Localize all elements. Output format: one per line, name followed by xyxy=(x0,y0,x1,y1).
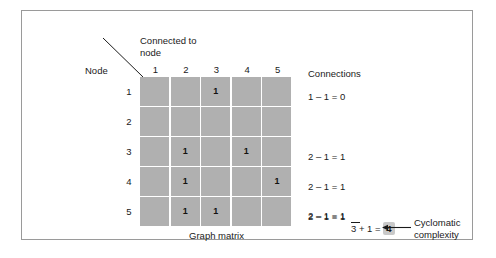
matrix-row-header: 3 xyxy=(123,137,135,167)
matrix-cell xyxy=(140,137,169,166)
figure-caption: Graph matrix xyxy=(140,230,293,241)
matrix-cell xyxy=(262,137,291,166)
matrix-cell xyxy=(201,107,230,136)
matrix-cell: 1 xyxy=(201,77,230,106)
matrix-cell xyxy=(232,197,261,226)
figure-frame: Connected to node Node 12345123451111111… xyxy=(21,10,473,240)
matrix-cell xyxy=(232,107,261,136)
cyclomatic-complexity-annotation: Cyclomatic complexity xyxy=(414,217,460,240)
matrix-cell xyxy=(262,77,291,106)
matrix-cell: 1 xyxy=(171,197,200,226)
matrix-cell: 1 xyxy=(201,197,230,226)
matrix-row-header: 4 xyxy=(123,167,135,197)
graph-matrix-figure: Connected to node Node 12345123451111111… xyxy=(0,0,496,258)
connected-to-node-label: Connected to node xyxy=(140,35,250,58)
matrix-cell: 1 xyxy=(232,137,261,166)
matrix-cell xyxy=(201,167,230,196)
matrix-cell: 1 xyxy=(262,167,291,196)
matrix-cell xyxy=(171,107,200,136)
matrix-cell xyxy=(140,167,169,196)
matrix-cell xyxy=(232,167,261,196)
summary-plus-expression: + 1 = xyxy=(359,223,381,234)
summary-sum-total: 3 xyxy=(351,223,356,234)
connections-title: Connections xyxy=(308,68,361,79)
left-arrow-icon xyxy=(382,223,412,232)
matrix-cell xyxy=(140,77,169,106)
connection-row: 1 – 1 = 0 xyxy=(308,91,345,102)
matrix-cell xyxy=(171,77,200,106)
matrix-cell xyxy=(140,197,169,226)
matrix-cell xyxy=(232,77,261,106)
matrix-cell xyxy=(201,137,230,166)
matrix-cell: 1 xyxy=(171,167,200,196)
summary-top-expression: 2 – 1 = 1 xyxy=(308,210,345,221)
matrix-cell xyxy=(140,107,169,136)
matrix-column-header: 5 xyxy=(262,64,293,75)
connection-row: 2 – 1 = 1 xyxy=(308,181,345,192)
graph-matrix-grid: 12345123451111111 xyxy=(140,77,293,227)
matrix-column-header: 4 xyxy=(232,64,263,75)
matrix-row-header: 5 xyxy=(123,197,135,227)
matrix-cell xyxy=(262,107,291,136)
matrix-column-header: 2 xyxy=(171,64,202,75)
matrix-cell: 1 xyxy=(171,137,200,166)
matrix-column-header: 3 xyxy=(201,64,232,75)
matrix-row-header: 2 xyxy=(123,107,135,137)
matrix-row-header: 1 xyxy=(123,77,135,107)
connection-row: 2 – 1 = 1 xyxy=(308,151,345,162)
matrix-cell xyxy=(262,197,291,226)
matrix-column-header: 1 xyxy=(140,64,171,75)
